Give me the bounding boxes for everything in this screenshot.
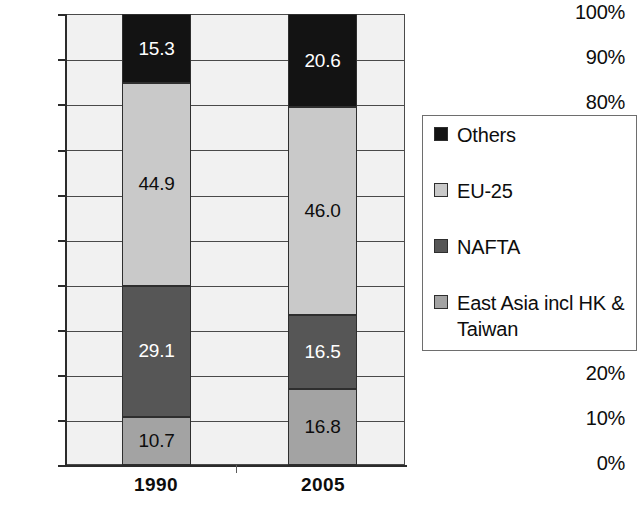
y-axis-tick [58,150,66,152]
legend-item-others[interactable]: Others [434,122,516,148]
y-axis-tick [58,285,66,287]
bar-segment-value: 10.7 [138,430,174,452]
y-axis-tick [58,104,66,106]
bar-segment-value: 29.1 [138,340,174,362]
bar-segment-value: 20.6 [304,50,340,72]
bar-segment[interactable]: 15.3 [122,14,191,83]
y-axis-label-20: 20% [569,362,625,385]
legend-swatch-east-asia [434,295,448,309]
y-axis-label-100: 100% [569,1,625,24]
chart-legend: Others EU-25 NAFTA East Asia incl HK & T… [422,115,637,351]
y-axis-tick [58,375,66,377]
y-axis-label-90: 90% [569,46,625,69]
x-axis-line [58,465,407,467]
bar-segment[interactable]: 46.0 [288,107,357,314]
bar-segment-value: 16.5 [304,341,340,363]
y-axis-label-0: 0% [569,452,625,475]
bar-segment-value: 16.8 [304,416,340,438]
bar-segment-value: 15.3 [138,38,174,60]
legend-label-others: Others [457,122,516,148]
y-axis-tick [58,465,66,467]
bar-segment[interactable]: 10.7 [122,417,191,465]
legend-item-nafta[interactable]: NAFTA [434,234,520,260]
bar-1990[interactable]: 10.729.144.915.3 [122,14,191,465]
bar-segment[interactable]: 29.1 [122,286,191,417]
legend-label-eu25: EU-25 [457,178,513,204]
y-axis-tick [58,420,66,422]
y-axis-tick [58,195,66,197]
legend-label-nafta: NAFTA [457,234,520,260]
y-axis-tick [58,14,66,16]
x-axis-label-1990: 1990 [96,474,216,496]
legend-label-east-asia: East Asia incl HK & Taiwan [457,290,635,342]
legend-item-east-asia[interactable]: East Asia incl HK & Taiwan [434,290,635,342]
x-axis-label-2005: 2005 [263,474,383,496]
legend-swatch-nafta [434,239,448,253]
legend-swatch-eu25 [434,183,448,197]
bar-segment[interactable]: 16.8 [288,389,357,465]
bar-segment-value: 44.9 [138,173,174,195]
legend-item-eu25[interactable]: EU-25 [434,178,513,204]
bar-segment[interactable]: 44.9 [122,83,191,285]
bar-segment[interactable]: 16.5 [288,315,357,389]
legend-swatch-others [434,127,448,141]
y-axis-tick [58,330,66,332]
bar-segment-value: 46.0 [304,200,340,222]
bar-2005[interactable]: 16.816.546.020.6 [288,14,357,465]
y-axis-label-10: 10% [569,407,625,430]
y-axis-label-80: 80% [569,91,625,114]
y-axis-tick [58,240,66,242]
x-axis-tick [236,465,237,473]
bar-segment[interactable]: 20.6 [288,14,357,107]
y-axis-tick [58,59,66,61]
